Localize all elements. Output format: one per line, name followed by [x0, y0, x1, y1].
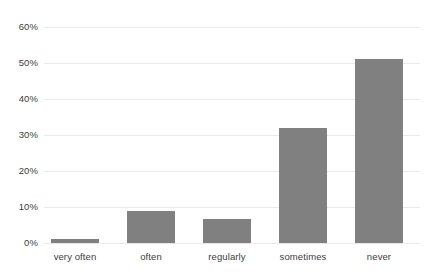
bar — [127, 211, 175, 243]
y-axis-tick-label: 50% — [0, 58, 38, 68]
bar-chart: 0%10%20%30%40%50%60% very oftenoftenregu… — [0, 0, 427, 279]
bar — [51, 239, 99, 243]
bars-group — [44, 0, 427, 279]
plot-area — [44, 0, 427, 279]
bar — [203, 219, 251, 243]
bar — [279, 128, 327, 243]
bar — [355, 59, 403, 243]
y-axis-tick-label: 60% — [0, 22, 38, 32]
x-axis: very oftenoftenregularlysometimesnever — [44, 252, 427, 272]
y-axis-tick-label: 20% — [0, 166, 38, 176]
x-axis-tick-label: often — [140, 252, 162, 262]
y-axis-tick-label: 10% — [0, 202, 38, 212]
y-axis-tick-label: 30% — [0, 130, 38, 140]
x-axis-tick-label: very often — [54, 252, 97, 262]
y-axis-tick-label: 40% — [0, 94, 38, 104]
x-axis-tick-label: sometimes — [280, 252, 327, 262]
x-axis-tick-label: regularly — [208, 252, 245, 262]
y-axis-tick-label: 0% — [0, 238, 38, 248]
y-axis: 0%10%20%30%40%50%60% — [0, 0, 38, 279]
x-axis-tick-label: never — [367, 252, 391, 262]
